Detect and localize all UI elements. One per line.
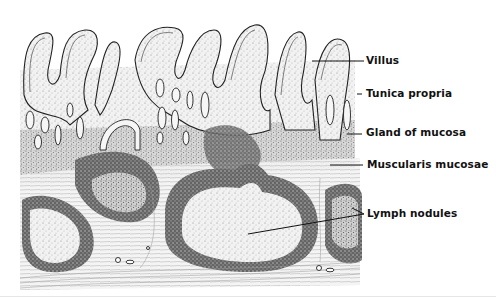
- histology-illustration: [0, 0, 496, 305]
- bottom-divider: [0, 296, 496, 297]
- label-tunica-propria: Tunica propria: [366, 87, 452, 99]
- label-villus: Villus: [366, 54, 399, 66]
- label-gland-of-mucosa: Gland of mucosa: [366, 126, 466, 138]
- label-lymph-nodules: Lymph nodules: [367, 207, 457, 219]
- villi: [24, 25, 350, 140]
- label-muscularis-mucosae: Muscularis mucosae: [367, 158, 488, 170]
